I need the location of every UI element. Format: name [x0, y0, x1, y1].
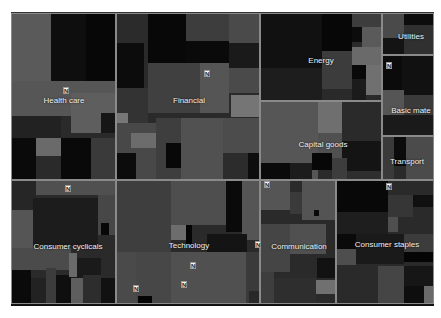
sector-financial[interactable]: FinancialN: [116, 13, 260, 180]
news-marker-icon[interactable]: N: [65, 185, 71, 192]
sector-label: Communication: [271, 242, 327, 251]
sector-label: Transport: [390, 157, 424, 166]
sector-label: Consumer cyclicals: [34, 242, 103, 251]
sector-label: Utilities: [398, 32, 424, 41]
treemap-chart: Health careNFinancialNEnergyUtilitiesBas…: [11, 12, 434, 306]
news-marker-icon[interactable]: N: [386, 62, 392, 69]
sector-consumer-cyclicals[interactable]: Consumer cyclicalsN: [11, 180, 116, 304]
sector-label: Technology: [169, 241, 209, 250]
sector-communication[interactable]: CommunicationN: [260, 180, 336, 304]
sector-utilities[interactable]: Utilities: [382, 13, 434, 55]
sector-label: Consumer staples: [355, 240, 419, 249]
news-marker-icon[interactable]: N: [204, 70, 210, 77]
sector-transport[interactable]: TransportN: [382, 136, 434, 180]
sector-label: Energy: [308, 56, 333, 65]
news-marker-icon[interactable]: N: [63, 87, 69, 94]
sector-label: Financial: [173, 96, 205, 105]
sector-capital-goods[interactable]: Capital goods: [260, 101, 382, 180]
sector-basic-mate[interactable]: Basic mateN: [382, 55, 434, 136]
news-marker-icon[interactable]: N: [190, 262, 196, 269]
sector-label: Basic mate: [391, 106, 431, 115]
news-marker-icon[interactable]: N: [181, 281, 187, 288]
sector-consumer-staples[interactable]: Consumer staples: [336, 180, 434, 304]
news-marker-icon[interactable]: N: [133, 285, 139, 292]
news-marker-icon[interactable]: N: [255, 241, 261, 248]
sector-health-care[interactable]: Health careN: [11, 13, 116, 180]
news-marker-icon[interactable]: N: [264, 181, 270, 188]
sector-label: Capital goods: [299, 140, 348, 149]
sector-energy[interactable]: Energy: [260, 13, 382, 101]
sector-label: Health care: [44, 96, 85, 105]
